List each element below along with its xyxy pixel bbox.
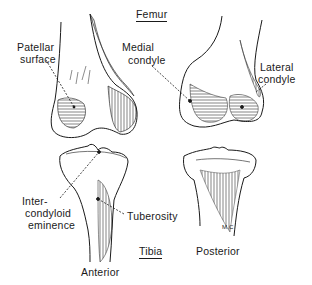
femur-anterior-drawing xyxy=(51,14,137,138)
label-patellar-surface-line1: Patellar xyxy=(17,41,54,53)
artist-signature: M.C xyxy=(222,221,234,233)
tibia-title: Tibia xyxy=(139,245,162,259)
leader-intercondyloid-eminence xyxy=(60,152,99,198)
label-lateral-condyle-line2: condyle xyxy=(258,73,296,85)
label-intercondyloid-line3: eminence xyxy=(28,219,75,231)
label-intercondyloid-line1: Inter- xyxy=(22,195,48,207)
label-tuberosity: Tuberosity xyxy=(127,210,178,222)
label-patellar-surface-line2: surface xyxy=(20,53,56,65)
label-medial-condyle-line1: Medial xyxy=(122,41,154,53)
tibia-anterior-drawing xyxy=(60,144,128,262)
leader-medial-condyle xyxy=(152,66,190,101)
label-anterior-view: Anterior xyxy=(81,266,119,278)
tibia-posterior-drawing xyxy=(183,147,256,236)
label-lateral-condyle-line1: Lateral xyxy=(260,61,294,73)
label-intercondyloid-line2: condyloid xyxy=(25,207,71,219)
label-posterior-view: Posterior xyxy=(196,245,240,257)
label-medial-condyle-line2: condyle xyxy=(128,54,166,66)
femur-title: Femur xyxy=(136,8,167,22)
femur-posterior-drawing xyxy=(180,16,264,127)
